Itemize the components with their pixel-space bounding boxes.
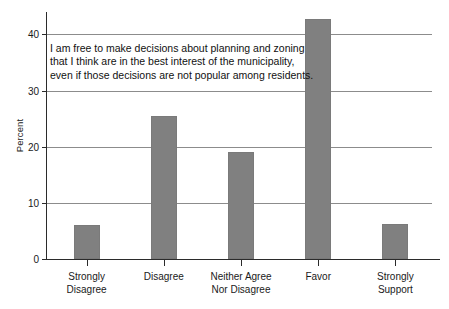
bar-chart-figure: Percent 010203040 StronglyDisagreeDisagr… <box>0 0 449 309</box>
x-axis-tick-mark <box>318 260 319 266</box>
bar <box>228 152 254 259</box>
gridline <box>47 91 432 92</box>
x-axis-tick-mark <box>164 260 165 266</box>
y-axis-tick-label: 20 <box>28 141 39 152</box>
y-axis-tick-mark <box>42 203 47 204</box>
bar <box>382 224 408 259</box>
bar <box>74 225 100 259</box>
y-axis-title: Percent <box>14 106 25 166</box>
x-axis-category-label-line: Favor <box>305 271 331 284</box>
bar <box>151 116 177 259</box>
y-axis-tick-mark <box>42 34 47 35</box>
y-axis-tick-label: 10 <box>28 197 39 208</box>
y-axis-tick-mark <box>42 147 47 148</box>
gridline <box>47 34 432 35</box>
y-axis-tick-label: 0 <box>33 254 39 265</box>
x-axis-category-label: Disagree <box>144 271 184 284</box>
x-axis-tick-mark <box>395 260 396 266</box>
x-axis-tick-mark <box>241 260 242 266</box>
annotation-line-2: that I think are in the best interest of… <box>50 55 350 68</box>
x-axis-spine <box>46 259 440 260</box>
x-axis-category-label: StronglySupport <box>377 271 414 296</box>
annotation-line-3: even if those decisions are not popular … <box>50 69 350 82</box>
x-axis-category-label-line: Nor Disagree <box>210 284 271 297</box>
gridline <box>47 147 432 148</box>
y-axis-spine <box>46 12 47 260</box>
x-axis-category-label-line: Disagree <box>67 284 107 297</box>
y-axis-tick-label: 30 <box>28 85 39 96</box>
x-axis-category-label-line: Strongly <box>67 271 107 284</box>
x-axis-category-label: StronglyDisagree <box>67 271 107 296</box>
chart-annotation-text: I am free to make decisions about planni… <box>50 42 350 82</box>
x-axis-category-label: Neither AgreeNor Disagree <box>210 271 271 296</box>
x-axis-category-label-line: Neither Agree <box>210 271 271 284</box>
y-axis-tick-mark <box>42 91 47 92</box>
y-axis-tick-label: 40 <box>28 29 39 40</box>
x-axis-category-label-line: Strongly <box>377 271 414 284</box>
x-axis-tick-mark <box>87 260 88 266</box>
x-axis-category-label-line: Support <box>377 284 414 297</box>
x-axis-category-label-line: Disagree <box>144 271 184 284</box>
y-axis-tick-mark <box>42 259 47 260</box>
annotation-line-1: I am free to make decisions about planni… <box>50 42 350 55</box>
x-axis-category-label: Favor <box>305 271 331 284</box>
